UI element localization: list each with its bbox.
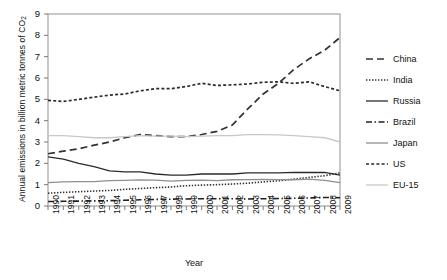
legend-item-china[interactable]: China	[366, 48, 446, 69]
legend-item-us[interactable]: US	[366, 153, 446, 174]
x-axis-tick-label: 1992	[83, 195, 92, 214]
legend-item-label: China	[393, 54, 417, 64]
x-axis-tick-label: 1999	[190, 195, 199, 214]
x-axis-tick-label: 1996	[144, 195, 153, 214]
legend-line-swatch-icon	[366, 180, 388, 190]
chart-legend: ChinaIndiaRussiaBrazilJapanUSEU-15	[366, 48, 446, 195]
legend-item-india[interactable]: India	[366, 69, 446, 90]
x-axis-title: Year	[48, 258, 340, 268]
legend-item-eu-15[interactable]: EU-15	[366, 174, 446, 195]
x-axis-tick-label: 2004	[267, 195, 276, 214]
legend-line-swatch-icon	[366, 54, 388, 64]
y-axis-title-subscript: 2	[20, 16, 27, 20]
legend-line-swatch-icon	[366, 117, 388, 127]
x-axis-tick-label: 1991	[67, 195, 76, 214]
x-axis-tick-label: 2001	[221, 195, 230, 214]
y-axis-title-text: Annual emissions in billion metric tonne…	[17, 20, 27, 202]
legend-line-swatch-icon	[366, 75, 388, 85]
x-axis-tick-label: 1997	[160, 195, 169, 214]
x-axis-tick-label: 2009	[344, 195, 353, 214]
x-axis-tick-label: 2006	[298, 195, 307, 214]
legend-line-swatch-icon	[366, 159, 388, 169]
legend-item-label: Brazil	[393, 117, 416, 127]
legend-item-label: EU-15	[393, 180, 419, 190]
x-axis-tick-label: 2003	[252, 195, 261, 214]
x-axis-tick-label: 1990	[52, 195, 61, 214]
legend-item-russia[interactable]: Russia	[366, 90, 446, 111]
emissions-line-chart: 0123456789 19901991199219931994199519961…	[0, 0, 447, 280]
x-axis-tick-label: 1993	[98, 195, 107, 214]
legend-item-brazil[interactable]: Brazil	[366, 111, 446, 132]
x-axis-tick-label: 1994	[113, 195, 122, 214]
legend-item-label: US	[393, 159, 406, 169]
legend-item-label: Russia	[393, 96, 421, 106]
legend-item-label: Japan	[393, 138, 418, 148]
legend-line-swatch-icon	[366, 96, 388, 106]
x-axis-tick-label: 2008	[329, 195, 338, 214]
legend-item-japan[interactable]: Japan	[366, 132, 446, 153]
legend-line-swatch-icon	[366, 138, 388, 148]
x-axis-tick-label: 2002	[236, 195, 245, 214]
y-axis-title: Annual emissions in billion metric tonne…	[17, 0, 27, 219]
x-axis-tick-label: 1995	[129, 195, 138, 214]
x-axis-tick-label: 1998	[175, 195, 184, 214]
x-axis-tick-label: 2007	[313, 195, 322, 214]
legend-item-label: India	[393, 75, 413, 85]
x-axis-tick-label: 2000	[206, 195, 215, 214]
x-axis-tick-label: 2005	[283, 195, 292, 214]
